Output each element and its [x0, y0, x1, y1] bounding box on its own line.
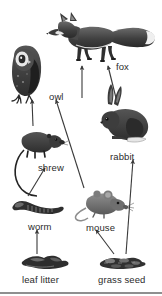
label-fox: fox — [116, 62, 129, 72]
label-worm: worm — [28, 222, 52, 232]
owl-illustration — [12, 45, 41, 103]
worm-illustration — [12, 201, 63, 214]
label-mouse: mouse — [86, 223, 115, 233]
rabbit-illustration — [100, 84, 148, 142]
label-leaf-litter: leaf litter — [22, 275, 59, 285]
label-grass-seed: grass seed — [98, 275, 145, 285]
arrow-grass-seed-to-mouse — [96, 230, 114, 254]
mouse-illustration — [75, 190, 134, 220]
arrow-shrew-to-owl — [32, 100, 33, 126]
baseline-rule — [0, 292, 162, 294]
grass-seed-illustration — [100, 258, 146, 269]
label-rabbit: rabbit — [110, 152, 134, 162]
leaf-litter-illustration — [22, 256, 69, 269]
food-web-figure: foxowlrabbitshrewmousewormleaf littergra… — [0, 0, 162, 296]
fox-illustration — [46, 12, 155, 62]
label-shrew: shrew — [38, 163, 64, 173]
label-owl: owl — [49, 92, 64, 102]
food-web-canvas — [0, 0, 162, 296]
